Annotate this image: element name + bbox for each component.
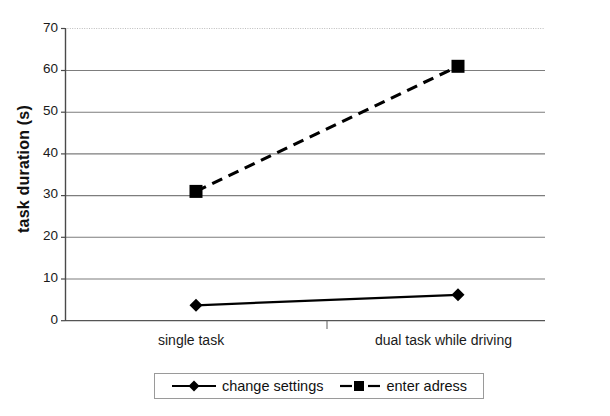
legend-label-change-settings: change settings (222, 379, 324, 394)
chart-legend: change settings enter adress (154, 373, 484, 399)
line-chart: task duration (s) 70 60 50 40 30 20 10 0… (0, 0, 610, 416)
series-enter-adress-line (196, 66, 458, 191)
series-change-settings-marker-0 (190, 299, 203, 312)
legend-label-enter-adress: enter adress (386, 379, 467, 394)
legend-entry-change-settings: change settings (171, 379, 324, 394)
square-marker-icon (339, 379, 381, 393)
plot-area (0, 0, 610, 416)
series-change-settings-line (196, 295, 458, 306)
series-enter-adress-marker-0 (190, 185, 203, 198)
series-change-settings-marker-1 (452, 288, 465, 301)
diamond-marker-icon (171, 379, 217, 393)
legend-entry-enter-adress: enter adress (339, 379, 467, 394)
series-enter-adress-marker-1 (452, 60, 465, 73)
